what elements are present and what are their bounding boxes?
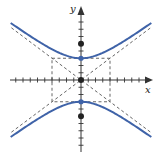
y-axis-arrow-icon <box>78 6 85 15</box>
focus-lower <box>78 113 84 119</box>
vertex-upper <box>78 56 83 61</box>
center-point <box>78 77 84 83</box>
hyperbola-diagram: x y <box>0 0 163 157</box>
vertex-lower <box>78 99 83 104</box>
y-axis-label: y <box>69 3 76 14</box>
focus-upper <box>78 41 84 47</box>
x-axis-label: x <box>145 84 151 95</box>
